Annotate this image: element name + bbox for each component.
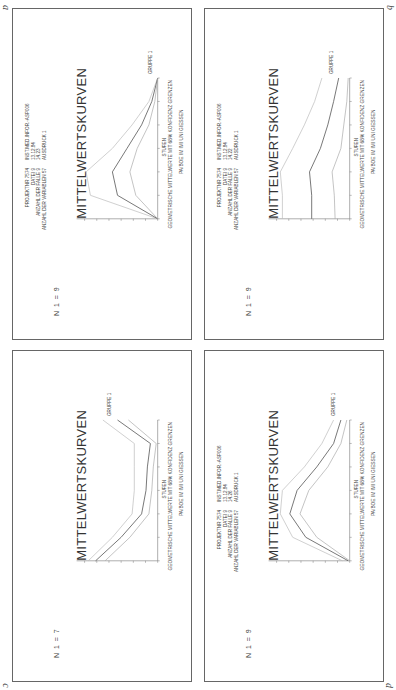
line-chart [207,356,381,676]
series-line [130,78,158,219]
footer-credit: PA/BOE IM IMI UNI GIESSEN [371,110,376,174]
series-line [280,420,342,561]
chart-page-d: N 1 = 9PROJEKTNR 7574DATEI 9ANZAHL DER F… [207,356,381,676]
chart-page-b: N 1 = 9PROJEKTNR 7574DATEI 9ANZAHL DER F… [207,14,381,334]
series-line [280,78,322,219]
chart-page-c: N 1 = 7MITTELWERTSKURVENGRUPPE 1STUFENGE… [15,356,189,676]
footer-caption: GEOMETRISCHE MITTELWERTE MIT 68% KONFIDE… [168,80,173,228]
legend-label: GRUPPE 1 [331,393,336,416]
x-axis-label: STUFEN [162,480,167,498]
footer-caption: GEOMETRISCHE MITTELWERTE MIT 68% KONFIDE… [168,422,173,570]
panel-label-b: b [385,5,396,10]
series-line [112,78,157,219]
series-line [300,420,350,561]
footer-caption: GEOMETRISCHE MITTELWERTE MIT 68% KONFIDE… [360,80,365,228]
chart-panel-a: N 1 = 9PROJEKTNR 7574DATEI 9ANZAHL DER F… [12,8,192,340]
x-axis-label: STUFEN [354,480,359,498]
series-line [290,420,348,561]
line-chart [207,14,381,334]
panel-label-c: c [1,683,12,687]
chart-page-a: N 1 = 9PROJEKTNR 7574DATEI 9ANZAHL DER F… [15,14,189,334]
chart-panel-c: N 1 = 7MITTELWERTSKURVENGRUPPE 1STUFENGE… [12,350,192,682]
legend-label: GRUPPE 1 [148,51,153,74]
chart-panel-d: N 1 = 9PROJEKTNR 7574DATEI 9ANZAHL DER F… [204,350,384,682]
chart-panel-b: N 1 = 9PROJEKTNR 7574DATEI 9ANZAHL DER F… [204,8,384,340]
line-chart [15,14,189,334]
footer-credit: PA/BOE IM IMI UNI GIESSEN [371,452,376,516]
panel-label-a: a [1,5,12,10]
footer-credit: PA/BOE IM IMI UNI GIESSEN [179,452,184,516]
footer-caption: GEOMETRISCHE MITTELWERTE MIT 68% KONFIDE… [360,422,365,570]
series-line [96,420,151,561]
x-axis-label: STUFEN [162,138,167,156]
legend-label: GRUPPE 1 [107,393,112,416]
line-chart [15,356,189,676]
legend-label: GRUPPE 1 [329,51,334,74]
panel-label-d: d [384,683,395,688]
footer-credit: PA/BOE IM IMI UNI GIESSEN [179,110,184,174]
x-axis-label: STUFEN [354,138,359,156]
